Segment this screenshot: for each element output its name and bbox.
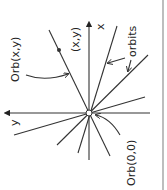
arrow-orb-00: [96, 115, 120, 135]
arrow-orbits-1: [108, 58, 125, 63]
label-orb-xy: Orb(x,y): [9, 37, 22, 82]
label-orbits: orbits: [126, 25, 139, 57]
point-xy: [57, 48, 61, 52]
orbit-diagram: Orb(x,y) (x,y) x y orbits Orb(0,0): [0, 0, 167, 190]
label-point-xy: (x,y): [69, 27, 82, 52]
orbit-line-2: [78, 26, 117, 153]
origin-point: [86, 110, 92, 116]
label-orb-00: Orb(0,0): [125, 140, 138, 186]
arrow-orbits-2: [128, 60, 131, 71]
label-y-axis: y: [8, 119, 21, 126]
label-x-axis: x: [94, 23, 107, 30]
arrow-orb-xy: [26, 74, 68, 78]
orbit-line-4: [14, 97, 145, 135]
